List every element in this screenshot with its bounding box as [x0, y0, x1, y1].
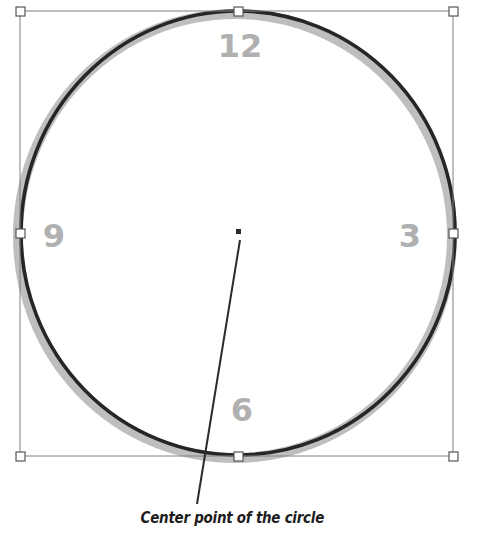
handle-bottom-right[interactable] — [449, 452, 458, 461]
handle-bottom-center[interactable] — [234, 452, 243, 461]
handle-top-right[interactable] — [449, 7, 458, 16]
handle-middle-right[interactable] — [449, 229, 458, 238]
callout-leader-line — [197, 240, 240, 504]
clock-numeral-3: 3 — [399, 217, 421, 255]
canvas-stage: 12 3 6 9 — [0, 0, 477, 549]
clock-numeral-6: 6 — [231, 391, 253, 429]
center-point-marker[interactable] — [236, 229, 241, 234]
callout-caption: Center point of the circle — [32, 508, 433, 527]
handle-top-center[interactable] — [234, 7, 243, 16]
handle-middle-left[interactable] — [16, 229, 25, 238]
handle-bottom-left[interactable] — [16, 452, 25, 461]
handle-top-left[interactable] — [16, 7, 25, 16]
clock-numeral-9: 9 — [43, 217, 65, 255]
clock-numeral-12: 12 — [218, 27, 263, 65]
vector-canvas[interactable]: 12 3 6 9 — [0, 0, 477, 549]
